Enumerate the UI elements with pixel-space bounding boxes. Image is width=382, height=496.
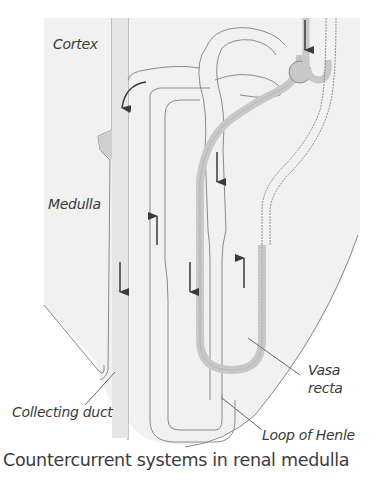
figure-caption: Countercurrent systems in renal medulla bbox=[3, 450, 349, 470]
label-medulla: Medulla bbox=[48, 196, 101, 212]
label-loop-of-henle: Loop of Henle bbox=[262, 427, 355, 443]
label-vasa-recta-line2: recta bbox=[308, 380, 343, 396]
label-vasa-recta-line1: Vasa bbox=[308, 362, 340, 378]
label-collecting-duct: Collecting duct bbox=[12, 404, 112, 420]
renal-medulla-diagram bbox=[0, 0, 382, 496]
label-cortex: Cortex bbox=[53, 36, 98, 52]
